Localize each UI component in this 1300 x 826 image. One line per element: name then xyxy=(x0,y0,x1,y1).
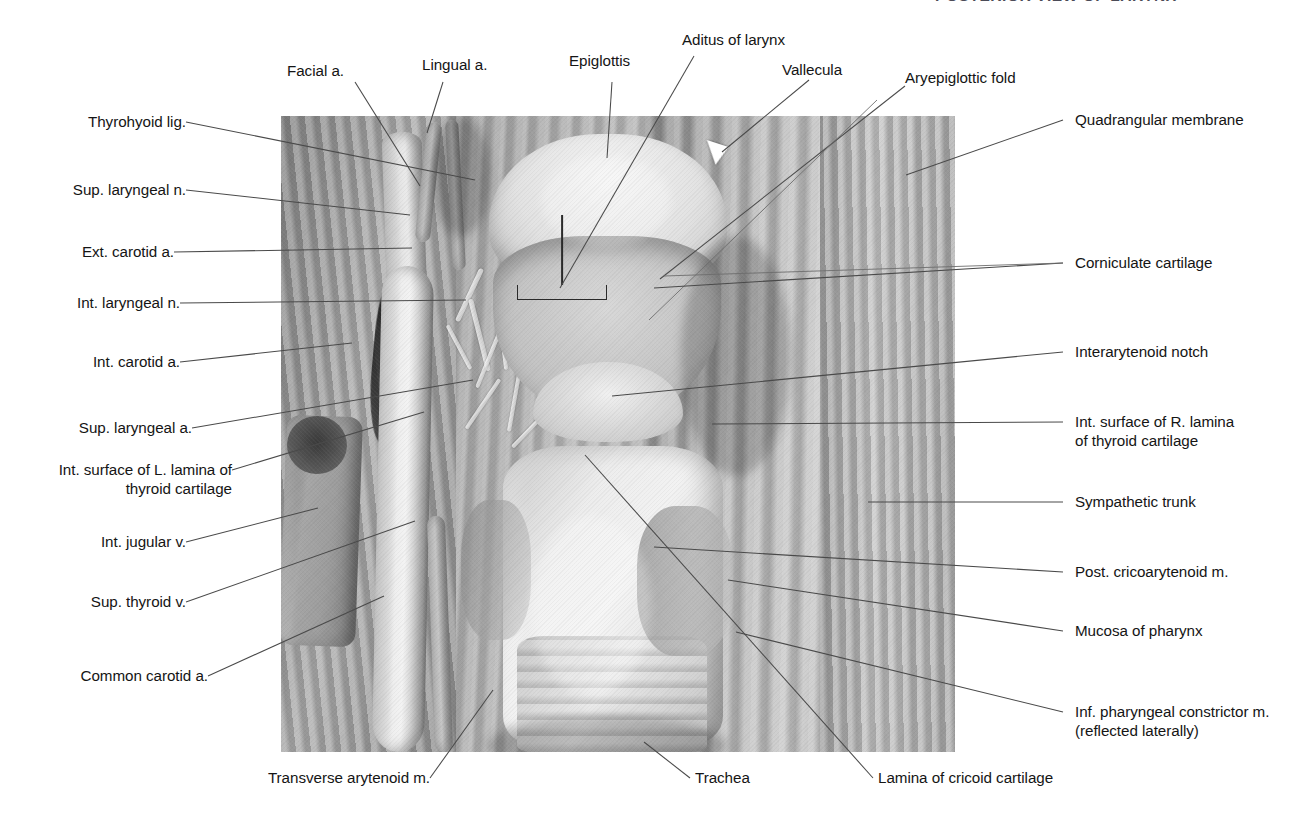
label-common-carotid-artery: Common carotid a. xyxy=(0,667,208,686)
label-quadrangular-membrane: Quadrangular membrane xyxy=(1075,111,1244,130)
dissection-photograph xyxy=(281,116,955,752)
label-interarytenoid-notch: Interarytenoid notch xyxy=(1075,343,1208,362)
label-inferior-pharyngeal-constrictor: Inf. pharyngeal constrictor m. (reflecte… xyxy=(1075,703,1269,740)
label-superior-laryngeal-nerve: Sup. laryngeal n. xyxy=(0,181,186,200)
label-transverse-arytenoid-muscle: Transverse arytenoid m. xyxy=(200,769,430,788)
label-corniculate-cartilage: Corniculate cartilage xyxy=(1075,254,1212,273)
label-lingual-artery: Lingual a. xyxy=(422,56,487,75)
label-external-carotid-artery: Ext. carotid a. xyxy=(0,243,174,262)
label-superior-thyroid-vein: Sup. thyroid v. xyxy=(0,593,186,612)
anatomy-plate: POSTERIOR VIEW OF LARYNX xyxy=(0,0,1300,826)
label-aryepiglottic-fold: Aryepiglottic fold xyxy=(905,69,1016,88)
label-internal-carotid-artery: Int. carotid a. xyxy=(0,353,180,372)
label-internal-jugular-vein: Int. jugular v. xyxy=(0,533,186,552)
label-internal-laryngeal-nerve: Int. laryngeal n. xyxy=(0,294,180,313)
label-sympathetic-trunk: Sympathetic trunk xyxy=(1075,493,1196,512)
label-lamina-of-cricoid-cartilage: Lamina of cricoid cartilage xyxy=(878,769,1053,788)
label-facial-artery: Facial a. xyxy=(287,62,344,81)
label-mucosa-of-pharynx: Mucosa of pharynx xyxy=(1075,622,1202,641)
aditus-bracket-marker xyxy=(517,285,607,300)
label-aditus-of-larynx: Aditus of larynx xyxy=(682,31,785,50)
label-epiglottis: Epiglottis xyxy=(569,52,630,71)
label-superior-laryngeal-artery: Sup. laryngeal a. xyxy=(0,419,192,438)
label-vallecula: Vallecula xyxy=(782,61,842,80)
label-trachea: Trachea xyxy=(695,769,750,788)
label-internal-surface-right-lamina: Int. surface of R. lamina of thyroid car… xyxy=(1075,413,1234,450)
label-posterior-cricoarytenoid-muscle: Post. cricoarytenoid m. xyxy=(1075,563,1228,582)
plate-title: POSTERIOR VIEW OF LARYNX xyxy=(935,0,1177,5)
label-thyrohyoid-ligament: Thyrohyoid lig. xyxy=(0,113,186,132)
label-internal-surface-left-lamina: Int. surface of L. lamina of thyroid car… xyxy=(0,461,232,498)
